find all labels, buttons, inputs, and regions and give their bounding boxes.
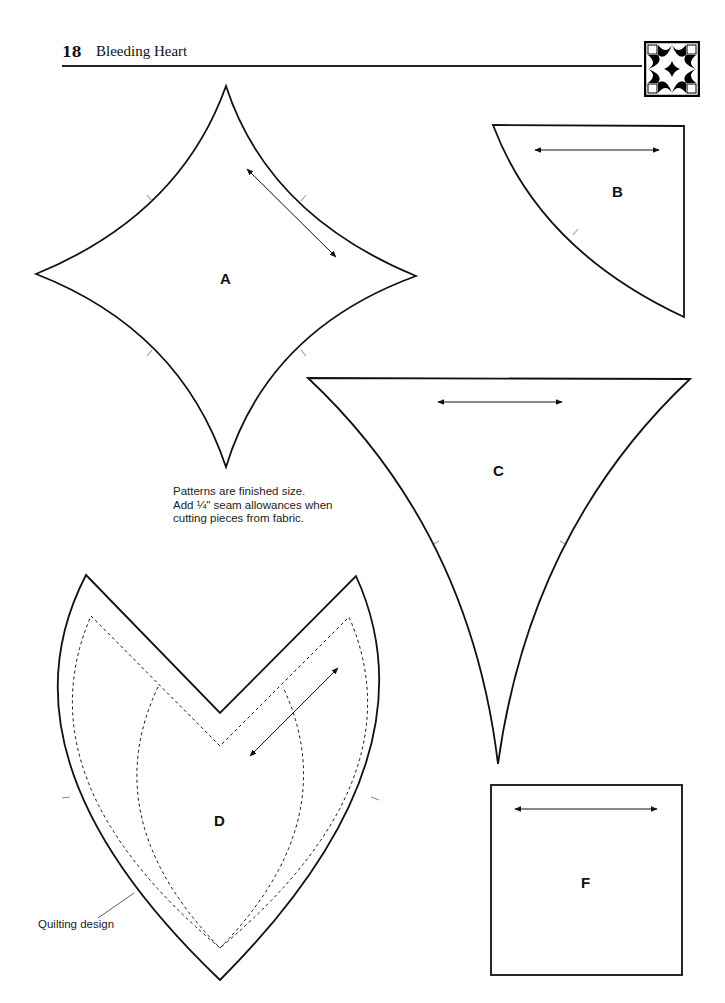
note-line-2: Add ¼" seam allowances when — [173, 499, 332, 513]
note-line-3: cutting pieces from fabric. — [173, 512, 332, 526]
pattern-pieces — [0, 0, 725, 1003]
quilting-design-label: Quilting design — [38, 918, 114, 930]
piece-label-a: A — [220, 270, 231, 287]
piece-label-f: F — [581, 874, 590, 891]
piece-label-c: C — [493, 462, 504, 479]
pattern-instructions: Patterns are finished size. Add ¼" seam … — [173, 485, 332, 526]
piece-label-d: D — [214, 812, 225, 829]
piece-label-b: B — [612, 183, 623, 200]
note-line-1: Patterns are finished size. — [173, 485, 332, 499]
piece-b-template — [493, 125, 684, 317]
